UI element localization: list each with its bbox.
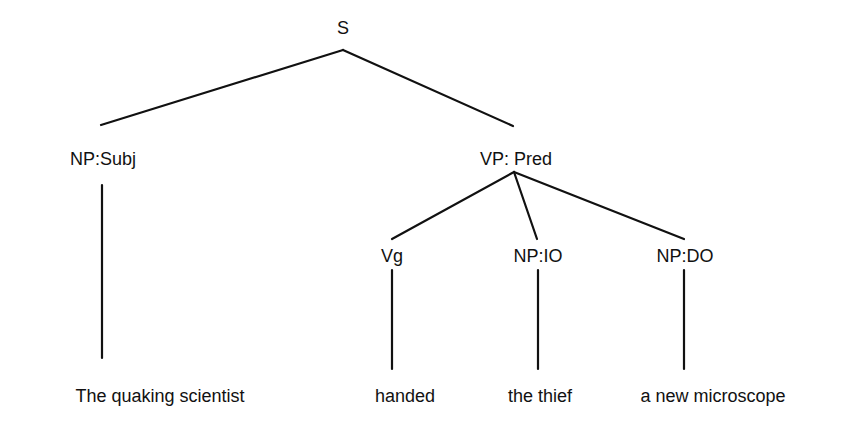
node-np-subj: NP:Subj [70, 149, 136, 169]
node-vg: Vg [381, 246, 403, 266]
node-vp-pred: VP: Pred [480, 149, 552, 169]
edge-s-vppred [343, 50, 513, 126]
node-s: S [337, 18, 349, 38]
node-np-do: NP:DO [656, 246, 713, 266]
edge-vp-npdo [514, 172, 684, 239]
leaf-verb: handed [375, 386, 435, 406]
edge-vp-vg [392, 172, 514, 239]
edge-vp-npio [514, 172, 537, 239]
tree-edges [0, 0, 854, 435]
edge-s-npsubj [101, 50, 343, 125]
leaf-direct-object: a new microscope [640, 386, 785, 406]
node-np-io: NP:IO [513, 246, 562, 266]
leaf-indirect-object: the thief [508, 386, 572, 406]
leaf-subject: The quaking scientist [75, 386, 244, 406]
